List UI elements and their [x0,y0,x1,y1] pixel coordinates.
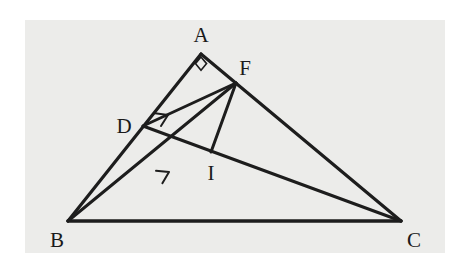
side-AC [201,54,401,221]
vertex-label-F: F [239,56,251,80]
figure-root: ABCDFI [0,0,463,264]
geometry-diagram: ABCDFI [0,0,463,264]
cevian-DC [143,126,401,221]
vertex-label-B: B [50,228,64,252]
parallel-mark-BF-chevron [156,166,172,183]
vertex-label-I: I [208,161,215,185]
parallel-mark-BF [156,166,172,183]
side-AB [68,54,201,221]
vertex-label-A: A [193,23,209,47]
vertex-label-D: D [116,114,131,138]
vertex-label-C: C [407,228,421,252]
